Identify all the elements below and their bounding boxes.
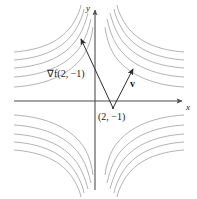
x-axis-label: x <box>186 103 190 112</box>
direction-vector-label: v <box>130 79 135 89</box>
gradient-diagram-figure: y x ∇f(2, −1) (2, −1) v <box>0 0 197 199</box>
gradient-vector-label: ∇f(2, −1) <box>47 69 85 79</box>
point-label: (2, −1) <box>98 112 125 122</box>
vectors-group <box>81 39 133 109</box>
level-curves-upper-right <box>105 5 184 87</box>
gradient-vector-arrow <box>81 39 113 108</box>
point-marker <box>112 107 114 109</box>
axes-group <box>14 10 182 190</box>
level-curves-lower-left <box>14 115 93 197</box>
level-curves-lower-right <box>105 115 184 197</box>
diagram-canvas <box>0 0 197 199</box>
y-axis-label: y <box>86 4 90 13</box>
